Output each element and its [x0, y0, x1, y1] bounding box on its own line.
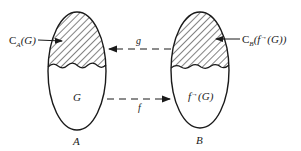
complement-b-label: CB(f→(G)) — [242, 33, 287, 48]
arrow-g-label: g — [136, 35, 141, 46]
image-f-g-label: f→(G) — [188, 90, 214, 103]
arrow-f-label: f — [138, 102, 142, 113]
subset-g-label: G — [73, 91, 81, 103]
set-a-label: A — [72, 135, 80, 147]
set-b — [171, 12, 229, 128]
set-b-label: B — [196, 134, 203, 146]
complement-a-label: CA(G) — [9, 34, 36, 49]
set-mapping-diagram: CA(G) CB(f→(G)) g f G f→(G) A B — [0, 0, 301, 151]
set-a — [48, 12, 106, 130]
